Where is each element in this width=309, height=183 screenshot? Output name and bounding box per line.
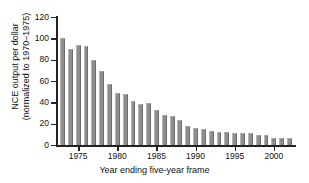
y-axis-tick-label: 120	[35, 13, 49, 22]
y-axis-title-line1: NCE output per dollar	[10, 0, 21, 142]
bar	[162, 115, 167, 145]
x-axis-title: Year ending five-year frame	[0, 165, 309, 175]
y-axis-tick	[51, 17, 56, 18]
bar	[123, 94, 128, 145]
y-axis-tick-label: 80	[40, 55, 49, 64]
bar	[107, 84, 112, 145]
x-axis-line	[56, 145, 296, 147]
bar	[138, 104, 143, 145]
y-axis-tick	[51, 38, 56, 39]
y-axis-tick-label: 0	[44, 141, 49, 150]
y-axis-tick	[51, 81, 56, 82]
y-axis-tick-label: 100	[35, 34, 49, 43]
y-axis-tick	[51, 102, 56, 103]
bar	[240, 133, 245, 145]
y-axis-title: NCE output per dollar (normalized to 197…	[10, 0, 31, 142]
bar	[68, 49, 73, 145]
bar	[154, 110, 159, 145]
y-axis-tick-label: 40	[40, 98, 49, 107]
plot-area	[57, 17, 295, 145]
bar	[271, 138, 276, 145]
y-axis-tick-label: 20	[40, 119, 49, 128]
bar	[115, 93, 120, 145]
bar	[217, 132, 222, 145]
bar	[60, 38, 65, 145]
bar	[84, 46, 89, 145]
bar	[232, 133, 237, 145]
bar	[264, 135, 269, 145]
bar	[256, 135, 261, 145]
y-axis-tick	[51, 124, 56, 125]
bar	[131, 101, 136, 145]
y-axis-tick-label: 60	[40, 77, 49, 86]
bar	[146, 103, 151, 145]
y-axis-title-line2: (normalized to 1970–1975)	[20, 0, 31, 142]
chart-figure: 197519801985199019952000 020406080100120…	[0, 0, 309, 183]
bar	[209, 131, 214, 145]
bar	[201, 129, 206, 145]
bar	[224, 132, 229, 145]
bar	[76, 45, 81, 145]
bar	[99, 71, 104, 145]
bar	[279, 138, 284, 145]
bar	[287, 138, 292, 145]
bar	[170, 116, 175, 145]
bar	[193, 128, 198, 145]
bar	[91, 60, 96, 145]
y-axis-tick	[51, 60, 56, 61]
y-axis-tick	[51, 145, 56, 146]
x-axis-tick-label: 1980	[108, 152, 127, 161]
x-axis-tick-label: 1995	[225, 152, 244, 161]
bar	[177, 120, 182, 145]
x-axis-tick-label: 1975	[69, 152, 88, 161]
x-axis-tick-label: 2000	[264, 152, 283, 161]
x-axis-tick-label: 1985	[147, 152, 166, 161]
x-axis-tick-label: 1990	[186, 152, 205, 161]
bar	[248, 133, 253, 145]
bar	[185, 126, 190, 145]
